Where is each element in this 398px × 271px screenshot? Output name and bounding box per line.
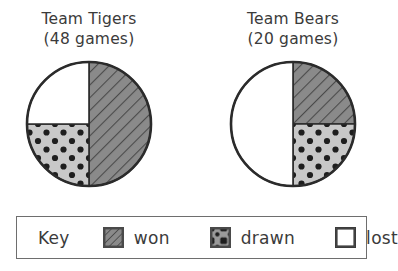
chart-tigers-subtitle: (48 games) [0, 29, 184, 49]
lost-swatch-icon [335, 227, 356, 248]
legend-entry-drawn: drawn [210, 227, 295, 248]
pie-bears [229, 60, 357, 188]
pie-tigers [25, 60, 153, 188]
chart-bears-title: Team Bears [198, 0, 388, 29]
legend-entry-lost: lost [335, 227, 398, 248]
pie-bears-slice-lost [231, 62, 293, 186]
chart-bears-subtitle: (20 games) [198, 29, 388, 49]
chart-tigers-title: Team Tigers [0, 0, 184, 29]
legend-label-drawn: drawn [241, 228, 295, 248]
won-swatch-icon [103, 227, 124, 248]
legend: Key won drawn lost [16, 216, 367, 259]
drawn-swatch-icon [210, 227, 231, 248]
chart-tigers: Team Tigers (48 games) [0, 0, 184, 188]
pie-tigers-slice-won [89, 62, 151, 186]
legend-label-won: won [134, 228, 170, 248]
legend-label-lost: lost [366, 228, 398, 248]
legend-entry-won: won [103, 227, 170, 248]
legend-key-label: Key [38, 228, 70, 248]
chart-bears: Team Bears (20 games) [198, 0, 388, 188]
